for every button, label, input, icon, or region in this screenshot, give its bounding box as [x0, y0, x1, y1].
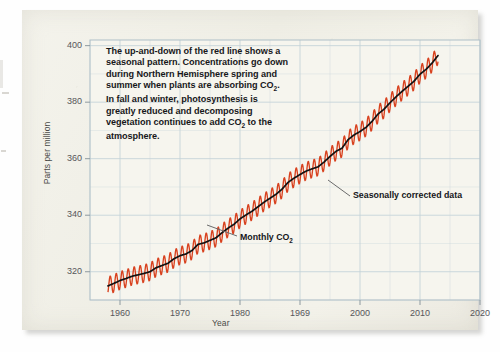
annotation-line: In fall and winter, photosynthesis is	[106, 94, 311, 105]
y-tick-label: 400	[56, 40, 82, 50]
y-axis-ticks	[85, 46, 90, 272]
annotation-line: atmosphere.	[106, 131, 311, 142]
x-tick-label: 2020	[460, 308, 500, 318]
x-axis-title: Year	[212, 318, 230, 328]
callout-seasonally-corrected: Seasonally corrected data	[353, 190, 462, 200]
scan-artifact-mark	[1, 150, 6, 152]
scan-artifact-mark	[2, 92, 9, 94]
annotation-line: summer when plants are absorbing CO2.	[106, 80, 311, 94]
scan-artifact-mark	[0, 60, 3, 88]
y-tick-label: 320	[56, 266, 82, 276]
x-axis-ticks	[120, 300, 480, 305]
annotation-line: The up-and-down of the red line shows a	[106, 46, 311, 57]
annotation-line: during Northern Hemisphere spring and	[106, 69, 311, 80]
x-tick-label: 2010	[400, 308, 440, 318]
annotation-line: greatly reduced and decomposing	[106, 106, 311, 117]
x-tick-label: 1970	[160, 308, 200, 318]
y-axis-title: Parts per million	[42, 122, 52, 185]
annotation-text: The up-and-down of the red line shows as…	[106, 46, 311, 143]
callout-monthly-co2: Monthly CO2	[240, 232, 293, 244]
scanned-page: 320340360380400 196019701980196920002010…	[0, 0, 500, 352]
co2-chart-figure: 320340360380400 196019701980196920002010…	[44, 20, 500, 340]
annotation-line: vegetation continues to add CO2 to the	[106, 117, 311, 131]
x-tick-label: 1969	[280, 308, 320, 318]
annotation-line: seasonal pattern. Concentrations go down	[106, 57, 311, 68]
y-tick-label: 360	[56, 153, 82, 163]
y-tick-label: 340	[56, 209, 82, 219]
y-tick-label: 380	[56, 96, 82, 106]
x-tick-label: 2000	[340, 308, 380, 318]
x-tick-label: 1960	[100, 308, 140, 318]
x-tick-label: 1980	[220, 308, 260, 318]
figure-card: 320340360380400 196019701980196920002010…	[22, 10, 478, 330]
